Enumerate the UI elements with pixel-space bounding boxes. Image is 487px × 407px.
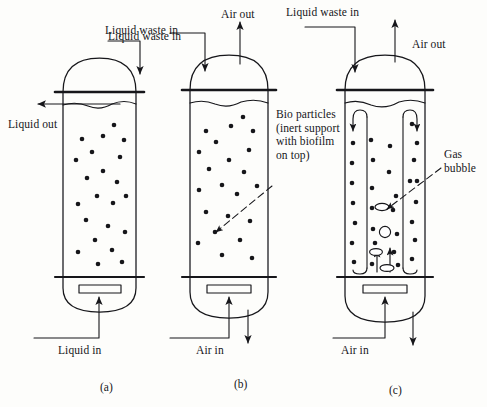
label-liquid-in-a: Liquid in — [58, 344, 101, 358]
panel-letter-b: (b) — [234, 378, 247, 390]
label-liquid-out-a: Liquid out — [8, 118, 57, 132]
panel-c-vessel — [337, 55, 433, 322]
label-air-out-b: Air out — [221, 8, 255, 22]
label-air-in-b: Air in — [196, 344, 224, 358]
annotation-gas-bubble: Gas bubble — [444, 148, 476, 175]
panel-c-bio-particles — [350, 122, 420, 268]
label-air-in-c: Air in — [341, 344, 369, 358]
panel-c-circulation-arrows — [305, 20, 417, 345]
panel-a-bio-particles — [74, 123, 129, 267]
panel-a-vessel — [55, 58, 144, 312]
label-liquid-waste-in-c: Liquid waste in — [286, 6, 359, 20]
annotation-bio-particles: Bio particles (inert support with biofil… — [276, 108, 340, 162]
panel-b-flow-arrows — [170, 22, 248, 343]
panel-letter-c: (c) — [389, 384, 402, 396]
label-air-out-c: Air out — [412, 38, 446, 52]
bio-particle-leader — [216, 186, 272, 232]
label-liquid-waste-in-b: Liquid waste in — [105, 24, 178, 38]
panel-b-vessel — [182, 55, 276, 318]
panel-letter-a: (a) — [100, 381, 113, 393]
figure-canvas: Liquid waste in Liquid out Liquid in Liq… — [0, 0, 487, 407]
panel-b-bio-particles — [196, 115, 260, 261]
